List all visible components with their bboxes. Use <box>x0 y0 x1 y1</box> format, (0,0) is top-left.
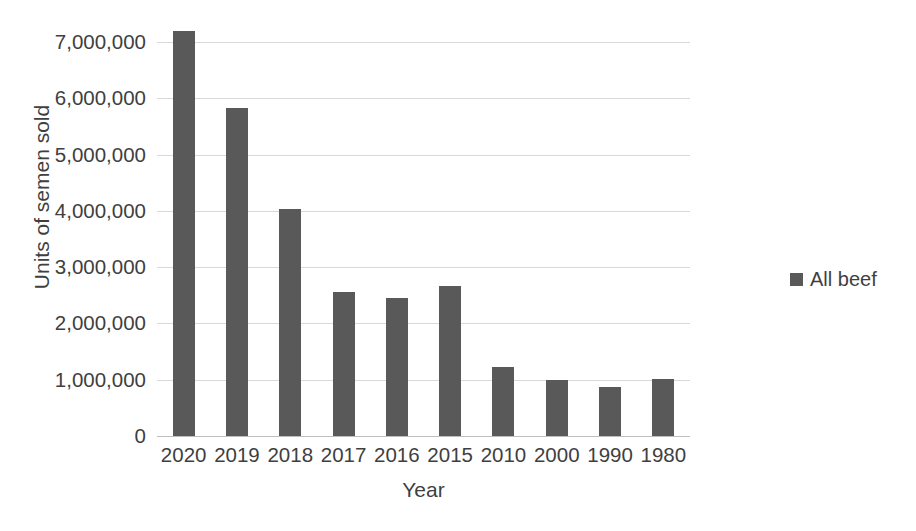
y-axis-tick-label: 0 <box>0 424 146 448</box>
bar <box>652 379 674 436</box>
bar <box>386 298 408 436</box>
cut-off-caption <box>0 518 916 531</box>
chart-legend: All beef <box>790 268 877 291</box>
bars <box>157 20 690 436</box>
y-axis-tick-label: 4,000,000 <box>0 199 146 223</box>
y-axis-tick-label: 6,000,000 <box>0 86 146 110</box>
bar <box>333 292 355 436</box>
bar <box>492 367 514 436</box>
bar <box>546 380 568 436</box>
x-axis-tick-label: 1980 <box>628 443 698 467</box>
y-axis-tick-label: 3,000,000 <box>0 255 146 279</box>
bar <box>439 286 461 436</box>
x-axis-tick-labels: 2020201920182017201620152010200019901980 <box>157 443 690 473</box>
bar-chart: Units of semen sold 01,000,0002,000,0003… <box>0 0 916 531</box>
y-axis-tick-label: 2,000,000 <box>0 311 146 335</box>
legend-label: All beef <box>810 268 877 291</box>
x-axis-title: Year <box>157 478 690 502</box>
legend-swatch-icon <box>790 273 803 286</box>
bar <box>279 209 301 436</box>
y-axis-tick-label: 5,000,000 <box>0 143 146 167</box>
y-axis-tick-label: 7,000,000 <box>0 30 146 54</box>
bar <box>599 387 621 436</box>
y-axis-tick-label: 1,000,000 <box>0 368 146 392</box>
bar <box>173 31 195 436</box>
x-axis-line <box>157 436 690 437</box>
y-axis-tick-labels: 01,000,0002,000,0003,000,0004,000,0005,0… <box>0 0 146 531</box>
plot-area <box>157 20 690 436</box>
bar <box>226 108 248 436</box>
